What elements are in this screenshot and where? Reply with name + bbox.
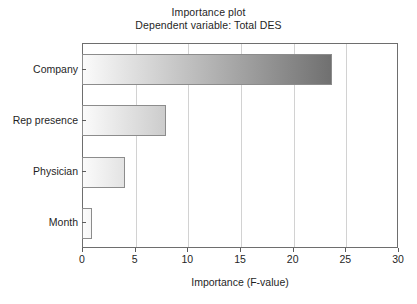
x-axis-tick-mark [135, 248, 136, 252]
chart-title-block: Importance plot Dependent variable: Tota… [0, 6, 417, 32]
y-axis-tick-label: Rep presence [2, 114, 78, 126]
bar [82, 157, 125, 188]
y-axis-tick-mark [82, 120, 86, 121]
x-axis-tick-mark [398, 248, 399, 252]
x-axis-tick-label: 30 [392, 253, 404, 265]
x-axis-tick-label: 5 [132, 253, 138, 265]
chart-title: Importance plot [0, 6, 417, 19]
x-axis-title: Importance (F-value) [82, 276, 398, 288]
y-axis-labels: CompanyRep presencePhysicianMonth [0, 43, 78, 248]
bar [82, 208, 92, 239]
x-axis-tick-label: 0 [79, 253, 85, 265]
x-axis-tick-mark [82, 248, 83, 252]
x-axis-tick-label: 20 [287, 253, 299, 265]
x-axis-tick-mark [240, 248, 241, 252]
y-axis-tick-label: Month [2, 216, 78, 228]
y-axis-tick-mark [82, 222, 86, 223]
importance-plot-figure: Importance plot Dependent variable: Tota… [0, 0, 417, 304]
y-axis-tick-label: Company [2, 63, 78, 75]
plot-area [82, 43, 398, 248]
x-axis-tick-label: 25 [339, 253, 351, 265]
x-axis-tick-mark [187, 248, 188, 252]
chart-subtitle: Dependent variable: Total DES [0, 19, 417, 32]
bars-group [83, 44, 397, 247]
y-axis-tick-label: Physician [2, 165, 78, 177]
y-axis-tick-mark [82, 171, 86, 172]
x-axis-tick-mark [345, 248, 346, 252]
bar [82, 54, 332, 85]
x-axis-tick-label: 15 [234, 253, 246, 265]
bar [82, 105, 166, 136]
x-axis-tick-mark [293, 248, 294, 252]
x-axis-tick-label: 10 [181, 253, 193, 265]
y-axis-tick-mark [82, 69, 86, 70]
